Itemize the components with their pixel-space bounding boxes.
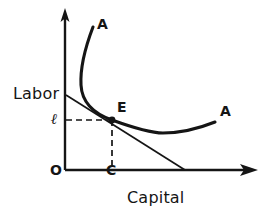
isoquant-top-label: A <box>97 17 108 31</box>
tangency-point-dot <box>109 117 116 124</box>
isoquant-right-label: A <box>220 104 231 118</box>
capital-quantity-label: C <box>106 163 116 177</box>
x-axis-label: Capital <box>127 190 185 206</box>
y-axis <box>61 8 70 170</box>
equilibrium-point-label: E <box>117 100 127 114</box>
origin-label: O <box>50 163 62 177</box>
figure-canvas: Labor Capital O C ℓ E A A <box>0 0 274 224</box>
x-axis <box>65 164 258 176</box>
labor-quantity-label: ℓ <box>51 112 57 127</box>
y-axis-label: Labor <box>13 86 59 102</box>
